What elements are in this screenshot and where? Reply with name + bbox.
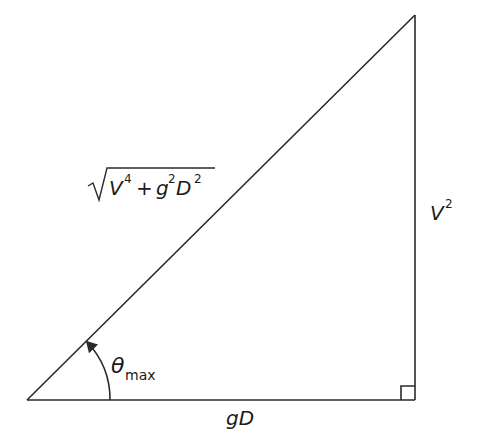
triangle-diagram: V 4 + g 2 D 2 V 2 gD θ max — [0, 0, 479, 447]
hyp-plus: + — [136, 176, 153, 200]
hyp-g: g — [156, 176, 169, 200]
hyp-d: D — [176, 176, 191, 200]
hyp-g-exp: 2 — [168, 172, 176, 186]
vertical-side-label: V 2 — [430, 197, 453, 225]
base-label: gD — [226, 406, 254, 430]
angle-label: θ max — [111, 353, 156, 383]
angle-theta: θ — [111, 353, 125, 378]
hyp-v: V — [109, 176, 124, 200]
hypotenuse-label: V 4 + g 2 D 2 — [88, 168, 215, 200]
vert-v-exp: 2 — [445, 197, 453, 211]
vert-v: V — [430, 201, 445, 225]
hyp-v-exp: 4 — [124, 172, 132, 186]
hyp-d-exp: 2 — [194, 172, 202, 186]
angle-arc — [87, 342, 110, 400]
right-angle-marker — [401, 386, 415, 400]
angle-subscript: max — [125, 367, 156, 383]
hypotenuse — [27, 15, 415, 400]
